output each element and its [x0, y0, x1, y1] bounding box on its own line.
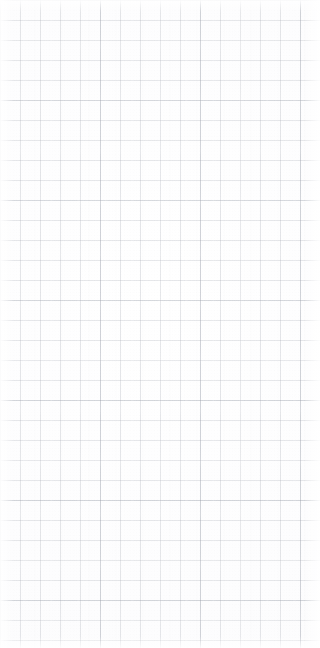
grid-paper-page [0, 0, 320, 648]
major-gridlines [0, 0, 320, 648]
